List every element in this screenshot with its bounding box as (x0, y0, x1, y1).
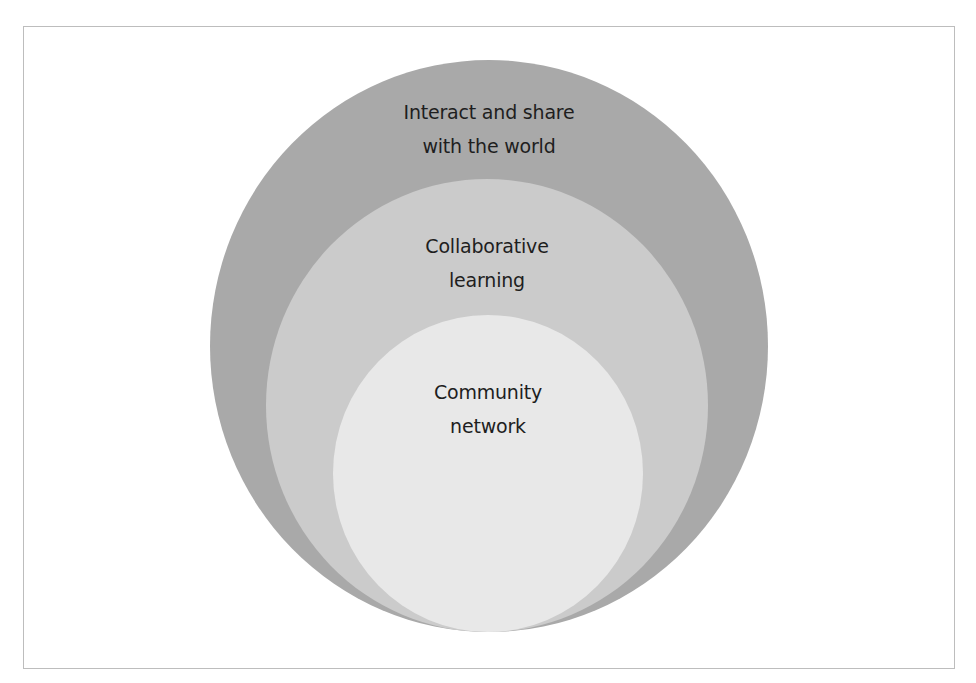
inner-circle-label: Community network (338, 375, 638, 443)
middle-label-line-1: Collaborative (337, 229, 637, 263)
outer-label-line-1: Interact and share (339, 95, 639, 129)
middle-circle-label: Collaborative learning (337, 229, 637, 297)
inner-circle-community-network (333, 315, 643, 632)
inner-label-line-1: Community (338, 375, 638, 409)
outer-label-line-2: with the world (339, 129, 639, 163)
middle-label-line-2: learning (337, 263, 637, 297)
outer-circle-label: Interact and share with the world (339, 95, 639, 163)
inner-label-line-2: network (338, 409, 638, 443)
